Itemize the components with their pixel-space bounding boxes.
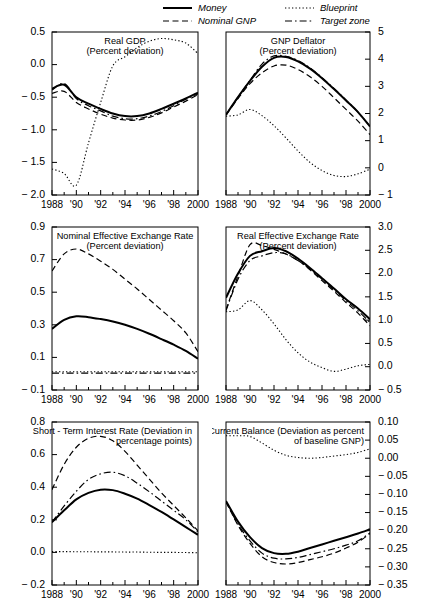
plot-frame	[52, 227, 198, 390]
panel-subtitle: (Percent deviation)	[86, 46, 163, 56]
y-tick-label: 0.1	[30, 350, 45, 362]
panel-title: Real GDP	[104, 36, 145, 46]
x-tick-label: '94	[118, 199, 131, 210]
y-tick-label: 0.00	[378, 451, 399, 463]
x-tick-label: '96	[315, 589, 328, 600]
panel-title: Nominal Effective Exchange Rate	[57, 231, 194, 241]
x-tick-label: 1988	[41, 589, 64, 600]
chart-legend: Money Nominal GNP Blueprint Target zone	[0, 0, 424, 26]
y-tick-label: − 1	[378, 188, 393, 200]
x-tick-label: '90	[243, 589, 256, 600]
series-money	[226, 501, 370, 554]
y-tick-label: − 0.5	[21, 90, 45, 102]
y-tick-label: 0.7	[30, 252, 45, 264]
y-tick-label: − 0.2	[21, 578, 45, 590]
x-tick-label: '94	[118, 589, 131, 600]
y-tick-label: 0	[378, 161, 384, 173]
chart-svg: − 0.10.10.30.50.70.91988'90'92'94'96'982…	[0, 221, 212, 416]
x-tick-label: '94	[291, 199, 304, 210]
y-tick-label: 0.0	[30, 57, 45, 69]
y-tick-label: 1.0	[378, 313, 393, 325]
x-tick-label: '92	[267, 394, 280, 405]
chart-panel-nominal-effective-exchange-rate: − 0.10.10.30.50.70.91988'90'92'94'96'982…	[0, 221, 212, 416]
y-tick-label: 3.0	[378, 221, 393, 232]
y-tick-label: − 0.5	[378, 383, 402, 395]
plot-frame	[226, 32, 370, 195]
y-tick-label: 0.10	[378, 416, 399, 427]
chart-svg: − 0.50.00.51.01.52.02.53.01988'90'92'94'…	[212, 221, 424, 416]
panel-subtitle: percentage points)	[116, 436, 192, 446]
y-tick-label: − 0.30	[378, 560, 408, 572]
plot-frame	[226, 227, 370, 390]
y-tick-label: 0.6	[30, 447, 45, 459]
plot-frame	[226, 422, 370, 585]
y-tick-label: 2.5	[378, 243, 393, 255]
plot-frame	[52, 422, 198, 585]
x-tick-label: '94	[291, 589, 304, 600]
y-tick-label: 0.5	[378, 336, 393, 348]
series-blueprint	[226, 301, 370, 372]
series-group	[52, 436, 198, 553]
y-tick-label: − 0.10	[378, 487, 408, 499]
series-nominal-gnp	[226, 65, 370, 135]
panel-subtitle: of baseline GNP)	[294, 436, 364, 446]
legend-label-blueprint: Blueprint	[320, 2, 358, 13]
panel-subtitle: (Percent deviation)	[259, 46, 336, 56]
series-nominal-gnp	[52, 436, 198, 531]
x-tick-label: 2000	[359, 394, 382, 405]
y-tick-label: 0.5	[30, 285, 45, 297]
chart-svg: − 10123451988'90'92'94'96'982000GNP Defl…	[212, 26, 424, 221]
x-tick-label: '98	[339, 589, 352, 600]
series-group	[226, 55, 370, 176]
series-target-zone	[226, 502, 370, 559]
series-target-zone	[52, 83, 198, 119]
x-tick-label: '98	[339, 199, 352, 210]
chart-panel-current-balance: − 0.35− 0.30− 0.25− 0.20− 0.15− 0.10− 0.…	[212, 416, 424, 611]
chart-panel-real-effective-exchange-rate: − 0.50.00.51.01.52.02.53.01988'90'92'94'…	[212, 221, 424, 416]
series-group	[52, 38, 198, 186]
x-tick-label: '98	[167, 394, 180, 405]
series-nominal-gnp	[226, 502, 370, 564]
x-tick-label: '98	[339, 394, 352, 405]
x-tick-label: 1988	[41, 394, 64, 405]
x-tick-label: 1988	[215, 394, 238, 405]
y-tick-label: − 1.5	[21, 155, 45, 167]
x-tick-label: 2000	[359, 589, 382, 600]
y-tick-label: 3	[378, 79, 384, 91]
y-tick-label: 0.05	[378, 433, 399, 445]
x-tick-label: '98	[167, 589, 180, 600]
panel-subtitle: (Percent deviation)	[86, 241, 163, 251]
series-blueprint	[52, 552, 198, 553]
series-money	[52, 85, 198, 117]
panel-title: Short - Term Interest Rate (Deviation in	[33, 426, 192, 436]
x-tick-label: '94	[118, 394, 131, 405]
x-tick-label: 1988	[215, 589, 238, 600]
x-tick-label: '98	[167, 199, 180, 210]
y-tick-label: 0.0	[30, 545, 45, 557]
series-money	[226, 248, 370, 319]
x-tick-label: '92	[94, 394, 107, 405]
y-tick-label: 1.5	[378, 290, 393, 302]
x-tick-label: '96	[143, 589, 156, 600]
y-tick-label: 2	[378, 106, 384, 118]
y-tick-label: 0.3	[30, 318, 45, 330]
series-nominal-gnp	[226, 243, 370, 326]
y-tick-label: − 0.35	[378, 578, 408, 590]
y-tick-label: − 2.0	[21, 188, 45, 200]
x-tick-label: '96	[315, 199, 328, 210]
x-tick-label: '92	[94, 589, 107, 600]
x-tick-label: 2000	[187, 199, 210, 210]
legend-label-target-zone: Target zone	[320, 15, 370, 26]
x-tick-label: '96	[143, 394, 156, 405]
x-tick-label: '92	[267, 199, 280, 210]
y-tick-label: 2.0	[378, 266, 393, 278]
series-group	[226, 243, 370, 372]
y-tick-label: − 1.0	[21, 123, 45, 135]
series-nominal-gnp	[52, 249, 198, 352]
series-target-zone	[226, 253, 370, 323]
x-tick-label: '90	[243, 394, 256, 405]
x-tick-label: 1988	[215, 199, 238, 210]
chart-svg: − 0.35− 0.30− 0.25− 0.20− 0.15− 0.10− 0.…	[212, 416, 424, 611]
series-group	[52, 249, 198, 373]
y-tick-label: − 0.25	[378, 542, 408, 554]
